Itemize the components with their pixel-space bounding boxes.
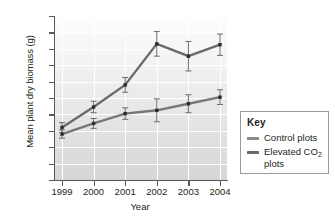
series-line	[62, 97, 220, 134]
data-point-marker	[92, 105, 95, 108]
y-axis-tick	[49, 98, 54, 99]
data-point-marker	[124, 83, 127, 86]
data-point-marker	[155, 109, 158, 112]
data-point-marker	[155, 42, 158, 45]
legend-item-label: Control plots	[264, 132, 317, 143]
legend-items: Control plotsElevated CO2 plots	[247, 132, 323, 169]
data-point-marker	[187, 102, 190, 105]
y-axis-title: Mean plant dry biomass (g)	[24, 7, 35, 177]
figure: Mean plant dry biomass (g) Year 01234567…	[0, 0, 335, 219]
chart-area: Mean plant dry biomass (g) Year 01234567…	[0, 0, 232, 219]
data-point-marker	[92, 122, 95, 125]
data-point-marker	[187, 54, 190, 57]
legend-title: Key	[247, 117, 323, 128]
y-axis-tick	[49, 147, 54, 148]
data-point-marker	[218, 43, 221, 46]
legend-item: Elevated CO2 plots	[247, 146, 323, 169]
x-axis-tick-label: 2004	[200, 186, 240, 197]
data-point-marker	[124, 112, 127, 115]
legend-line-swatch	[247, 151, 259, 154]
y-axis-tick	[49, 82, 54, 83]
y-axis-tick	[49, 32, 54, 33]
x-axis-line	[54, 180, 228, 181]
y-axis-tick	[49, 16, 54, 17]
series-line	[62, 44, 220, 128]
data-point-marker	[60, 126, 63, 129]
legend-line-swatch	[247, 137, 259, 140]
y-axis-tick	[49, 65, 54, 66]
legend-item-label: Elevated CO2 plots	[264, 146, 323, 169]
y-axis-tick	[49, 164, 54, 165]
data-series-layer	[55, 16, 227, 180]
legend: Key Control plotsElevated CO2 plots	[240, 111, 329, 174]
y-axis-tick	[49, 131, 54, 132]
y-axis-tick	[49, 180, 54, 181]
y-axis-tick	[49, 49, 54, 50]
series-elevated-co2-plots	[59, 32, 223, 133]
legend-item: Control plots	[247, 132, 323, 143]
x-axis-title: Year	[55, 201, 225, 212]
legend-label-subscript: 2	[318, 151, 322, 158]
y-axis-tick	[49, 114, 54, 115]
data-point-marker	[218, 95, 221, 98]
